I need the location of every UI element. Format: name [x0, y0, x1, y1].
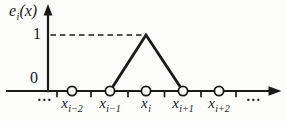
node-circle [214, 86, 223, 95]
node-circle [105, 86, 114, 95]
x-label-i-plus-2: xi+2 [208, 96, 230, 111]
ellipsis-right: ... [247, 90, 262, 104]
node-circle [67, 86, 76, 95]
y-axis-label: ei(x) [9, 3, 37, 19]
node-circle [178, 86, 187, 95]
y-axis-label-argument: (x) [19, 2, 37, 19]
x-label-i-minus-1: xi−1 [99, 96, 121, 111]
y-axis-arrow-icon [44, 4, 53, 16]
hat-function-figure: ei(x) 1 0 ... xi−2 xi−1 xi xi+1 xi+2 ... [0, 0, 286, 121]
ellipsis-left: ... [38, 90, 53, 104]
y-tick-label-0: 0 [30, 70, 38, 86]
y-axis-label-subscript: i [17, 11, 20, 22]
x-label-i-plus-1: xi+1 [172, 96, 194, 111]
y-axis-label-base: e [9, 2, 16, 19]
x-axis-arrow-icon [269, 86, 282, 96]
hat-function-curve [110, 35, 183, 91]
x-label-i-minus-2: xi−2 [61, 96, 83, 111]
y-tick-label-1: 1 [33, 26, 41, 42]
x-label-i: xi [141, 96, 151, 111]
